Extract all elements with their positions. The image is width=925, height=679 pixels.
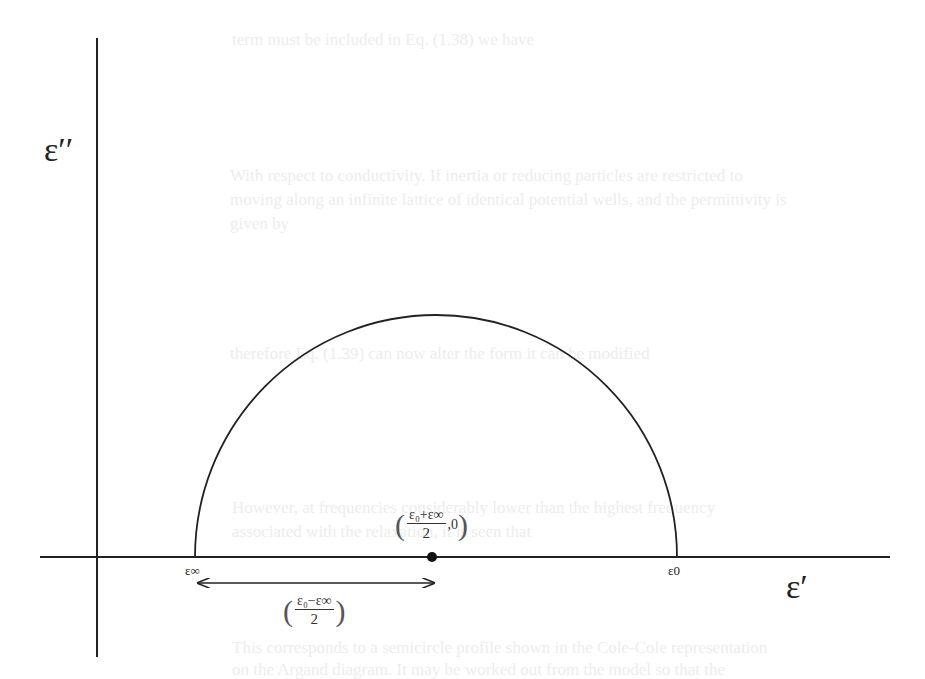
left-paren: ( xyxy=(283,596,293,626)
fraction-numerator: ε₀−ε∞ xyxy=(295,593,334,610)
right-paren: ) xyxy=(336,596,346,626)
x-axis-label: ε′ xyxy=(786,568,808,606)
fraction-numerator: ε₀+ε∞ xyxy=(407,507,446,524)
left-paren: ( xyxy=(395,510,405,540)
fraction: ε₀+ε∞ 2 xyxy=(405,507,448,542)
y-axis-label: ε′′ xyxy=(44,131,73,169)
epsilon-infinity-label: ε∞ xyxy=(185,563,200,579)
fraction: ε₀−ε∞ 2 xyxy=(293,593,336,628)
center-coordinate-label: ( ε₀+ε∞ 2 ,0 ) xyxy=(395,507,468,542)
epsilon-zero-label: ε0 xyxy=(668,563,680,579)
radius-label: ( ε₀−ε∞ 2 ) xyxy=(283,593,346,628)
fraction-denominator: 2 xyxy=(423,524,431,542)
right-paren: ) xyxy=(458,510,468,540)
fraction-suffix: ,0 xyxy=(448,517,459,533)
center-point xyxy=(427,552,437,562)
fraction-denominator: 2 xyxy=(311,610,319,628)
